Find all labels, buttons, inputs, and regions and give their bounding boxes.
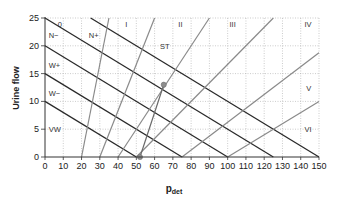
x-tick-label: 90	[204, 161, 214, 171]
region-label: ST	[160, 42, 170, 51]
x-tick-label: 120	[257, 161, 272, 171]
region-label: V	[306, 84, 311, 93]
region-label: IV	[304, 20, 311, 29]
x-tick-labels: 0102030405060708090100110120130140150	[42, 161, 326, 171]
x-tick-label: 100	[220, 161, 235, 171]
x-tick-label: 70	[168, 161, 178, 171]
patient-line	[140, 85, 164, 157]
x-tick-label: 40	[113, 161, 123, 171]
x-axis-label-sub: det	[172, 188, 183, 195]
x-tick-label: 130	[275, 161, 290, 171]
x-tick-label: 0	[42, 161, 47, 171]
y-tick-label: 15	[29, 69, 39, 79]
region-label: N−	[49, 31, 59, 40]
region-label: W−	[49, 89, 61, 98]
contractility-line	[45, 18, 273, 157]
x-tick-label: 10	[58, 161, 68, 171]
region-label: VW	[49, 125, 62, 134]
region-label: III	[229, 20, 235, 29]
axes	[41, 17, 319, 160]
region-label: VI	[304, 125, 311, 134]
region-label: N+	[89, 31, 99, 40]
x-tick-label: 30	[95, 161, 105, 171]
x-tick-label: 20	[77, 161, 87, 171]
y-tick-label: 20	[29, 41, 39, 51]
y-tick-label: 0	[34, 152, 39, 162]
obstruction-line	[182, 53, 319, 157]
region-label: I	[125, 20, 127, 29]
x-tick-label: 60	[150, 161, 160, 171]
patient-marker	[161, 82, 166, 87]
region-labels: 0N−N+IIISTIIIIVW+W−VVWVI	[49, 20, 312, 135]
x-tick-label: 80	[186, 161, 196, 171]
y-tick-label: 5	[34, 124, 39, 134]
y-tick-label: 25	[29, 13, 39, 23]
x-tick-label: 110	[239, 161, 253, 171]
x-tick-label: 50	[131, 161, 141, 171]
x-axis-label: pdet	[166, 183, 183, 195]
pressure-flow-nomogram: 0510152025 01020304050607080901001101201…	[0, 0, 342, 200]
x-tick-label: 150	[311, 161, 326, 171]
obstruction-line	[136, 18, 273, 157]
x-tick-label: 140	[293, 161, 308, 171]
y-tick-labels: 0510152025	[29, 13, 39, 162]
region-label: W+	[49, 61, 61, 70]
y-tick-label: 10	[29, 96, 39, 106]
region-label: 0	[58, 20, 62, 29]
obstruction-lines	[82, 18, 319, 157]
region-label: II	[178, 20, 182, 29]
y-axis-label: Urine flow	[11, 65, 21, 110]
